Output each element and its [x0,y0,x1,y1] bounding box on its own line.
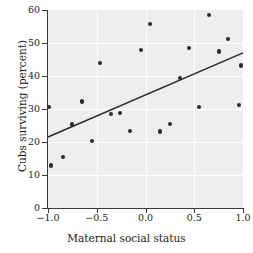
y-axis-tick [42,175,48,176]
x-axis-tick-label: 0.5 [174,213,214,223]
gridline-horizontal [48,76,243,77]
x-axis-tick-label: 1.0 [223,213,253,223]
y-axis-tick-label: 50 [28,38,40,48]
data-point [61,155,65,159]
plot-area [48,10,243,208]
x-axis-title: Maternal social status [0,232,253,244]
y-axis-title: Cubs surviving (percent) [16,11,28,201]
data-point [128,129,132,133]
y-axis-tick [42,76,48,77]
data-point [98,61,102,65]
y-axis-tick [42,10,48,11]
data-point [49,163,53,167]
gridline-horizontal [48,109,243,110]
y-axis-tick [42,142,48,143]
scatter-plot-figure: Cubs surviving (percent) Maternal social… [0,0,253,253]
x-axis-tick-label: 0.0 [126,213,166,223]
y-axis-tick-label: 40 [28,71,40,81]
y-axis-tick-label: 10 [28,170,40,180]
data-point [217,49,221,53]
data-point [139,48,143,52]
y-axis-tick-label: 30 [28,104,40,114]
data-point [239,63,243,67]
y-axis-tick-label: 60 [28,5,40,15]
y-axis-tick [42,43,48,44]
data-point [80,99,84,103]
data-point [207,13,211,17]
data-point [178,76,182,80]
gridline-horizontal [48,142,243,143]
x-axis-tick-label: −1.0 [28,213,68,223]
y-axis-tick [42,109,48,110]
y-axis-tick-label: 20 [28,137,40,147]
gridline-horizontal [48,175,243,176]
gridline-horizontal [48,43,243,44]
x-axis-tick-label: −0.5 [77,213,117,223]
data-point [158,129,162,133]
